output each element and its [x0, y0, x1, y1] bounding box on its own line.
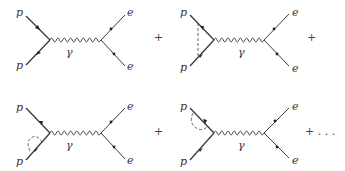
arrow-icon [274, 120, 277, 123]
label-e-upper: e [292, 6, 299, 19]
diagram-tree: p p γ e e + [16, 6, 163, 73]
outgoing-electron-upper-line [264, 14, 289, 40]
label-e-upper: e [127, 6, 134, 19]
label-e-upper: e [292, 100, 299, 113]
outgoing-electron-upper-line [101, 108, 125, 133]
photon-propagator [50, 131, 101, 135]
label-p-upper: p [180, 100, 187, 113]
label-p-upper: p [180, 6, 187, 19]
label-gamma: γ [238, 46, 245, 59]
diagram-self-energy-upper: p p γ e e + . . . [180, 100, 335, 168]
arrow-icon [113, 146, 116, 149]
photon-propagator [214, 38, 264, 42]
label-gamma: γ [66, 46, 73, 59]
plus-ellipsis-operator: + . . . [305, 125, 335, 138]
label-p-lower: p [180, 61, 187, 74]
arrow-icon [273, 28, 276, 31]
photon-propagator [50, 38, 101, 42]
outgoing-electron-lower-line [101, 40, 125, 66]
plus-operator: + [154, 31, 163, 44]
label-gamma: γ [66, 139, 73, 152]
label-p-lower: p [16, 59, 23, 72]
arrow-icon [276, 53, 279, 56]
label-p-upper: p [16, 101, 23, 114]
incoming-proton-lower-line [190, 133, 214, 160]
label-gamma: γ [238, 139, 245, 152]
arrow-icon [113, 53, 116, 56]
label-p-lower: p [180, 155, 187, 168]
label-e-lower: e [292, 154, 299, 167]
plus-operator: + [307, 31, 316, 44]
arrow-icon [276, 146, 279, 149]
outgoing-electron-upper-line [264, 108, 289, 133]
label-p-lower: p [16, 155, 23, 168]
diagram-self-energy-lower: p p γ e e + [16, 100, 163, 168]
outgoing-electron-lower-line [101, 133, 125, 159]
label-e-upper: e [127, 100, 134, 113]
label-e-lower: e [292, 62, 299, 75]
incoming-proton-lower-line [190, 40, 214, 66]
arrow-icon [110, 28, 113, 31]
outgoing-electron-lower-line [264, 133, 289, 158]
photon-propagator [214, 131, 264, 135]
plus-operator: + [154, 125, 163, 138]
label-e-lower: e [127, 154, 134, 167]
arrow-icon [110, 121, 113, 124]
label-p-upper: p [16, 6, 23, 19]
outgoing-electron-upper-line [101, 15, 125, 40]
label-e-lower: e [127, 60, 134, 73]
incoming-proton-upper-line [26, 108, 50, 133]
feynman-diagram-series: p p γ e e + p p γ e e + p p [0, 0, 345, 171]
diagram-vertex-correction: p p γ e e + [180, 6, 316, 75]
